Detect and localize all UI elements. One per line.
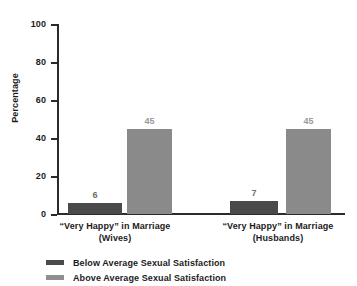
bar-wives-below-average[interactable] (68, 203, 122, 214)
category-label-husbands: “Very Happy” in Marriage (Husbands) (218, 220, 338, 244)
bar-wives-above-average[interactable] (127, 129, 172, 215)
category-label-wives-line2: (Wives) (55, 232, 175, 244)
bar-value-husbands-above-average: 45 (286, 117, 331, 126)
legend-label-above-average: Above Average Sexual Satisfaction (73, 273, 226, 283)
legend-swatch-icon-above-average (46, 275, 64, 280)
bar-value-wives-above-average: 45 (127, 117, 172, 126)
legend-swatch-icon-below-average (46, 260, 64, 265)
y-tick-label-100: 100 (6, 20, 46, 29)
y-tick-label-60: 60 (6, 96, 46, 105)
bar-husbands-above-average[interactable] (286, 129, 331, 215)
bar-husbands-below-average[interactable] (230, 201, 278, 214)
y-tick-label-40: 40 (6, 134, 46, 143)
y-tick-label-20: 20 (6, 172, 46, 181)
bar-value-wives-below-average: 6 (68, 191, 122, 200)
y-tick-label-0: 0 (6, 210, 46, 219)
category-label-wives: “Very Happy” in Marriage (Wives) (55, 220, 175, 244)
chart-legend: Below Average Sexual Satisfaction Above … (46, 255, 226, 285)
category-label-husbands-line2: (Husbands) (218, 232, 338, 244)
category-label-husbands-line1: “Very Happy” in Marriage (223, 221, 334, 231)
legend-item-below-average[interactable]: Below Average Sexual Satisfaction (46, 255, 226, 270)
plot-area: 6 45 7 45 (57, 24, 345, 214)
legend-item-above-average[interactable]: Above Average Sexual Satisfaction (46, 270, 226, 285)
category-label-wives-line1: “Very Happy” in Marriage (60, 221, 171, 231)
bar-value-husbands-below-average: 7 (230, 189, 278, 198)
legend-label-below-average: Below Average Sexual Satisfaction (73, 258, 225, 268)
bar-chart: Percentage 100 80 60 40 20 0 6 45 7 (0, 0, 357, 286)
y-tick-label-80: 80 (6, 58, 46, 67)
